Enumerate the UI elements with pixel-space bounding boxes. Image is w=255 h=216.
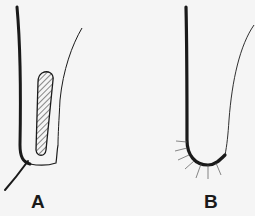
panel-b-drawing [175,7,254,179]
diagram-drawing [0,0,255,216]
diagram-canvas: A B [0,0,255,216]
panel-b-thick-wall [186,7,225,165]
panel-b-thin-wall [225,25,254,155]
panel-a-drawing [5,7,82,190]
panel-a-thick-wall [17,7,30,164]
panel-a-tail [5,161,28,190]
panel-b-bristles [175,141,221,179]
panel-a-hatched-capsule [36,72,53,155]
panel-a-thin-wall [58,28,82,145]
panel-b-label: B [204,191,218,213]
panel-a-label: A [31,191,45,213]
